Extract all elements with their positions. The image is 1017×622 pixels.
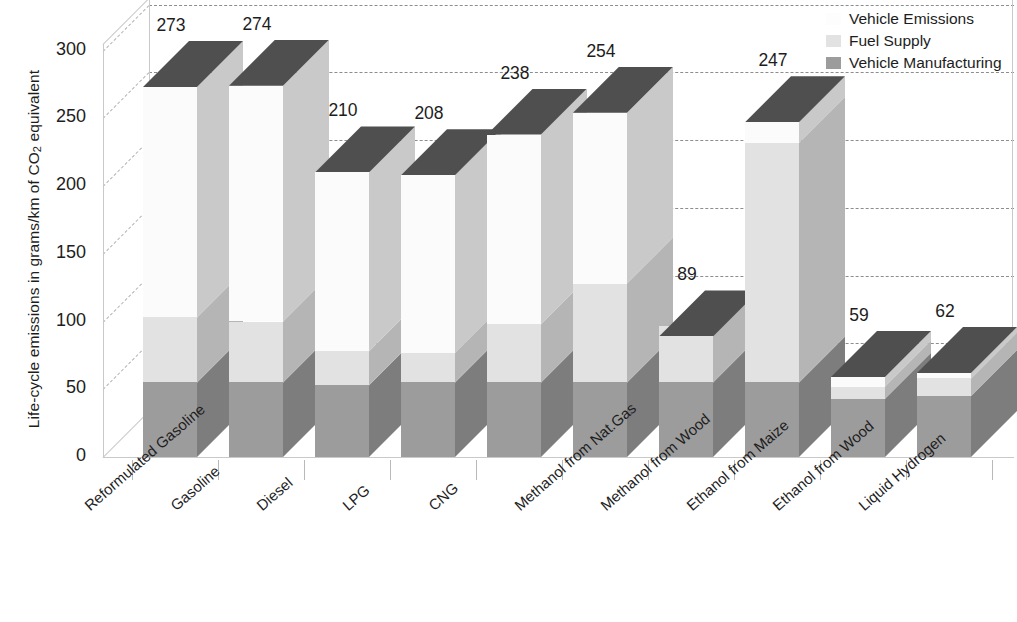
y-axis-tick-label: 0 [38, 445, 86, 466]
legend-swatch [826, 13, 841, 25]
bar-segment-front [917, 378, 971, 396]
y-axis-tick-label: 200 [38, 174, 86, 195]
bar-column[interactable]: 62 [103, 12, 1016, 512]
y-axis-tick-label: 50 [38, 377, 86, 398]
legend-swatch [826, 35, 841, 47]
bar-series-group: 273274210208238254892475962 [103, 12, 1016, 512]
y-axis-tick-labels: 050100150200250300 [36, 0, 86, 622]
y-axis-tick-label: 250 [38, 106, 86, 127]
legend-label: Fuel Supply [849, 32, 931, 50]
legend-item[interactable]: Vehicle Emissions [826, 8, 1012, 30]
y-axis-tick-label: 100 [38, 310, 86, 331]
gridline [149, 5, 1014, 6]
legend-item[interactable]: Vehicle Manufacturing [826, 52, 1012, 74]
legend: Vehicle EmissionsFuel SupplyVehicle Manu… [826, 8, 1012, 74]
legend-swatch [826, 57, 841, 69]
legend-label: Vehicle Manufacturing [849, 54, 1002, 72]
x-axis-tick [992, 460, 993, 480]
y-axis-tick-label: 150 [38, 242, 86, 263]
legend-item[interactable]: Fuel Supply [826, 30, 1012, 52]
bar-value-label: 62 [918, 301, 972, 322]
bar-segment-front [917, 373, 971, 378]
plot-area: 273274210208238254892475962 [103, 12, 1016, 512]
y-axis-tick-label: 300 [38, 39, 86, 60]
legend-label: Vehicle Emissions [849, 10, 974, 28]
